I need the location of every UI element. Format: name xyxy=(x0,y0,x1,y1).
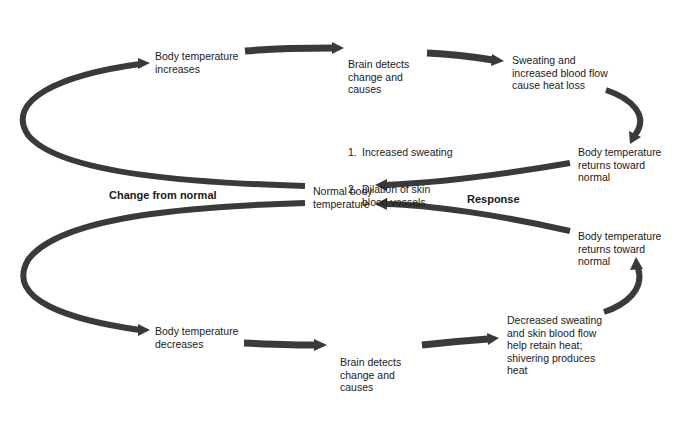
label-response: Response xyxy=(467,193,520,206)
brain-hot-response-list: 1.Increased sweating 2.Dilation of skin … xyxy=(348,121,452,234)
node-normal-body-temperature: Normal body temperature xyxy=(313,185,373,210)
brain-cold-response-list: 1.Decreased sweating 2.Constriction of s… xyxy=(340,419,449,436)
node-brain-detects-cold: Brain detects change and causes 1.Decrea… xyxy=(340,331,449,436)
node-brain-detects-hot-heading: Brain detects change and causes xyxy=(348,58,452,96)
node-brain-detects-hot: Brain detects change and causes 1.Increa… xyxy=(348,33,452,258)
arrow-increase-to-brain xyxy=(245,42,344,54)
arrow-sweating-to-return xyxy=(606,90,641,144)
node-brain-detects-cold-heading: Brain detects change and causes xyxy=(340,356,449,394)
arrow-decrease-to-brain xyxy=(244,339,327,351)
temperature-feedback-diagram: Body temperature increases Brain detects… xyxy=(0,0,681,436)
node-retain-heat: Decreased sweating and skin blood flow h… xyxy=(507,314,602,377)
node-temperature-decreases: Body temperature decreases xyxy=(155,325,238,350)
node-returns-toward-normal-lower: Body temperature returns toward normal xyxy=(578,230,661,268)
label-change-from-normal: Change from normal xyxy=(109,189,217,202)
node-temperature-increases: Body temperature increases xyxy=(155,50,238,75)
node-returns-toward-normal-upper: Body temperature returns toward normal xyxy=(578,146,661,184)
list-item: 1.Increased sweating xyxy=(348,146,452,159)
arrow-normal-to-decrease xyxy=(23,203,305,336)
arrow-normal-to-increase xyxy=(23,58,305,186)
node-sweating-heat-loss: Sweating and increased blood flow cause … xyxy=(512,54,608,92)
